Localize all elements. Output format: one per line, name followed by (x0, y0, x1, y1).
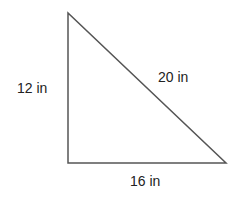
triangle-diagram: 12 in 20 in 16 in (0, 0, 239, 197)
left-side-label: 12 in (17, 80, 47, 96)
base-label: 16 in (130, 173, 160, 189)
hypotenuse-label: 20 in (158, 69, 188, 85)
right-triangle (68, 13, 226, 163)
